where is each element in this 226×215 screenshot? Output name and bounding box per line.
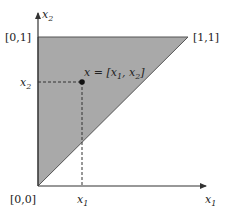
x-axis-label: x1 xyxy=(205,193,216,208)
shaded-region xyxy=(38,37,188,186)
x-tick-label: x1 xyxy=(77,193,88,208)
corner-label-origin: [0,0] xyxy=(10,193,36,206)
y-tick-label: x2 xyxy=(20,76,31,91)
corner-label-top-left: [0,1] xyxy=(5,31,31,44)
diagram-canvas: x2 x1 [0,1] [1,1] [0,0] x2 x1 x = [x1, x… xyxy=(0,0,226,215)
corner-label-top-right: [1,1] xyxy=(193,31,219,44)
y-axis-label: x2 xyxy=(42,8,53,23)
point-x xyxy=(79,79,85,85)
